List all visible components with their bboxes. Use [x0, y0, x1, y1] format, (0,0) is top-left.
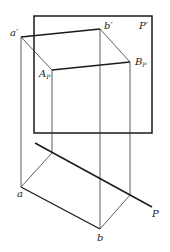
- projector-b-p: [100, 195, 130, 229]
- label-b-p-sub: P: [141, 61, 147, 68]
- label-a-prime: a′: [10, 27, 19, 38]
- label-plane-p: P: [151, 208, 159, 219]
- label-plane-p-prime: P′: [138, 20, 149, 31]
- label-b: b: [97, 232, 103, 243]
- label-a-p-sub: P: [45, 73, 51, 80]
- projector-a-p: [21, 153, 52, 187]
- line-a-b: [21, 187, 100, 229]
- label-a-p-main: A: [38, 68, 46, 79]
- projection-diagram: a′ b′ P′ AP BP a b P: [0, 0, 170, 252]
- label-a: a: [17, 188, 23, 199]
- label-b-prime: b′: [104, 20, 113, 31]
- projector-b-prime-bp: [100, 29, 130, 62]
- label-b-p: BP: [134, 56, 147, 68]
- label-b-p-main: B: [134, 56, 142, 67]
- line-a-prime-b-prime: [21, 29, 100, 37]
- projector-a-prime-ap: [21, 37, 52, 70]
- label-a-p: AP: [38, 68, 51, 80]
- plane-p-trace: [35, 143, 152, 207]
- line-ap-bp: [52, 62, 130, 70]
